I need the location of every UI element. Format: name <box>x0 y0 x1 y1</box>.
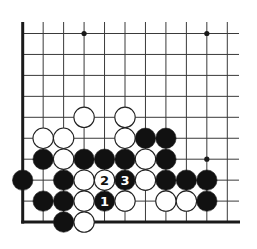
black-stone-icon <box>156 170 176 190</box>
black-stone-icon <box>13 170 33 190</box>
white-stone-icon <box>156 191 176 211</box>
white-stone <box>156 191 176 211</box>
white-stone <box>115 191 135 211</box>
white-stone-icon <box>115 191 135 211</box>
white-stone-icon <box>74 107 94 127</box>
star-point-icon <box>81 31 86 36</box>
white-stone-icon <box>135 170 155 190</box>
white-stone <box>115 107 135 127</box>
white-stone-icon <box>74 212 94 232</box>
white-stone <box>53 128 73 148</box>
go-board: 231 <box>0 0 257 249</box>
white-stone <box>135 170 155 190</box>
white-stone-icon <box>74 191 94 211</box>
black-stone <box>53 212 73 232</box>
black-stone-icon <box>156 128 176 148</box>
white-stone <box>33 128 53 148</box>
white-stone-icon <box>33 128 53 148</box>
black-stone <box>53 191 73 211</box>
white-stone-move-2: 2 <box>94 170 114 190</box>
black-stone-icon <box>33 191 53 211</box>
white-stone-icon <box>53 149 73 169</box>
white-stone-icon <box>74 170 94 190</box>
black-stone-icon <box>156 149 176 169</box>
black-stone-icon <box>53 191 73 211</box>
move-number-label: 2 <box>100 173 109 188</box>
black-stone-icon <box>197 191 217 211</box>
black-stone-move-1: 1 <box>94 191 114 211</box>
white-stone <box>74 191 94 211</box>
black-stone <box>115 149 135 169</box>
black-stone <box>33 149 53 169</box>
white-stone <box>53 149 73 169</box>
black-stone-icon <box>74 149 94 169</box>
black-stone-icon <box>53 170 73 190</box>
black-stone-move-3: 3 <box>115 170 135 190</box>
black-stone-icon <box>176 170 196 190</box>
white-stone-icon <box>176 191 196 211</box>
black-stone <box>135 128 155 148</box>
move-number-label: 3 <box>120 173 129 188</box>
white-stone <box>115 128 135 148</box>
white-stone <box>74 170 94 190</box>
black-stone <box>74 149 94 169</box>
black-stone <box>156 170 176 190</box>
star-point-icon <box>204 157 209 162</box>
white-stone <box>74 107 94 127</box>
star-point-icon <box>204 31 209 36</box>
black-stone-icon <box>115 149 135 169</box>
white-stone-icon <box>115 107 135 127</box>
black-stone-icon <box>53 212 73 232</box>
move-number-label: 1 <box>100 194 109 209</box>
black-stone <box>197 191 217 211</box>
white-stone-icon <box>53 128 73 148</box>
black-stone <box>176 170 196 190</box>
black-stone <box>33 191 53 211</box>
white-stone <box>135 149 155 169</box>
white-stone-icon <box>115 128 135 148</box>
black-stone-icon <box>135 128 155 148</box>
black-stone-icon <box>94 149 114 169</box>
black-stone <box>53 170 73 190</box>
white-stone <box>74 212 94 232</box>
black-stone <box>156 149 176 169</box>
black-stone <box>156 128 176 148</box>
black-stone <box>94 149 114 169</box>
black-stone-icon <box>197 170 217 190</box>
black-stone <box>197 170 217 190</box>
white-stone-icon <box>135 149 155 169</box>
black-stone <box>13 170 33 190</box>
black-stone-icon <box>33 149 53 169</box>
white-stone <box>176 191 196 211</box>
